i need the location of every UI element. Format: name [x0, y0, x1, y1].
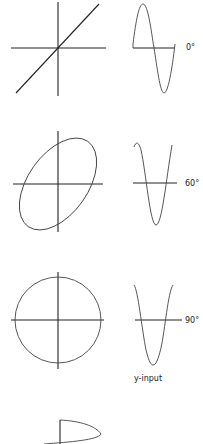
phase-label-90: 90°: [185, 316, 199, 325]
y-input-caption: y-input: [134, 374, 162, 383]
phase-label-0: 0°: [186, 43, 195, 52]
sine-wave: [134, 143, 172, 225]
lissajous-90-deg: [11, 272, 104, 369]
cosine-wave: [134, 285, 173, 365]
lissajous-0-deg: [11, 2, 106, 96]
partial-pattern-bottom: [44, 420, 101, 444]
lissajous-60-deg: [4, 124, 113, 244]
waveform-90-deg: [134, 285, 182, 365]
lissajous-diagram: 0° 60° 90° y-input: [0, 0, 203, 444]
row-0-degrees: 0°: [11, 2, 195, 96]
row-90-degrees: 90° y-input: [11, 272, 199, 383]
phase-label-60: 60°: [185, 179, 199, 188]
waveform-0-deg: [133, 4, 175, 93]
half-ellipse-trace: [44, 420, 101, 444]
waveform-60-deg: [133, 143, 177, 225]
row-60-degrees: 60°: [4, 124, 200, 244]
